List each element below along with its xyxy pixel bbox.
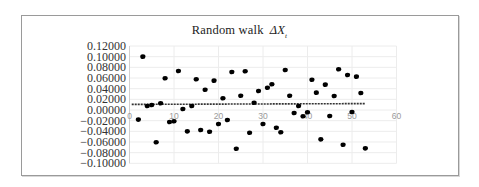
data-point <box>180 107 185 112</box>
data-point <box>265 85 270 90</box>
data-point <box>318 137 323 142</box>
data-point <box>300 114 305 119</box>
data-point <box>203 87 208 92</box>
data-point <box>229 70 234 75</box>
y-tick-label: −0.10000 <box>80 156 126 170</box>
data-point <box>225 118 230 123</box>
data-point <box>274 125 279 130</box>
data-point <box>332 94 337 99</box>
scatter-plot: 0.120000.100000.080000.060000.040000.020… <box>0 0 479 187</box>
data-point <box>149 103 154 108</box>
data-point <box>287 93 292 98</box>
data-point <box>136 117 141 122</box>
data-point <box>363 146 368 151</box>
data-point <box>283 68 288 73</box>
x-tick-label: 30 <box>258 111 268 121</box>
data-point <box>171 119 176 124</box>
data-point <box>354 74 359 79</box>
data-point <box>336 67 341 72</box>
data-point <box>158 101 163 106</box>
data-point <box>163 76 168 81</box>
data-point <box>358 91 363 96</box>
x-axis-labels: 0102030405060 <box>127 111 401 121</box>
data-point <box>252 100 257 105</box>
data-point <box>260 122 265 127</box>
data-point <box>296 104 301 109</box>
data-points <box>136 54 368 151</box>
data-point <box>243 69 248 74</box>
data-point <box>278 130 283 135</box>
x-tick-label: 0 <box>127 111 132 121</box>
data-point <box>154 140 159 145</box>
trend-line <box>132 104 366 105</box>
data-point <box>176 69 181 74</box>
data-point <box>211 78 216 83</box>
data-point <box>269 82 274 87</box>
data-point <box>145 104 150 109</box>
data-point <box>341 142 346 147</box>
data-point <box>185 129 190 134</box>
data-point <box>220 96 225 101</box>
data-point <box>327 114 332 119</box>
data-point <box>140 54 145 59</box>
x-tick-label: 60 <box>392 111 402 121</box>
data-point <box>305 110 310 115</box>
data-point <box>349 110 354 115</box>
data-point <box>247 130 252 135</box>
data-point <box>238 93 243 98</box>
data-point <box>194 77 199 82</box>
data-point <box>167 120 172 125</box>
data-point <box>314 90 319 95</box>
data-point <box>256 89 261 94</box>
data-point <box>345 73 350 78</box>
data-point <box>207 129 212 134</box>
data-point <box>189 104 194 109</box>
data-point <box>234 146 239 151</box>
x-tick-label: 20 <box>214 111 224 121</box>
y-axis-labels: 0.120000.100000.080000.060000.040000.020… <box>80 39 126 170</box>
data-point <box>323 82 328 87</box>
data-point <box>309 77 314 82</box>
data-point <box>216 122 221 127</box>
data-point <box>292 111 297 116</box>
data-point <box>198 128 203 133</box>
